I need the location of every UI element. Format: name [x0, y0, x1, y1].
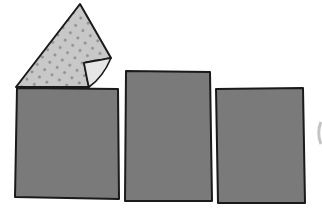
right-panel: [216, 88, 305, 203]
edge-mark: [319, 122, 321, 144]
illustration: [0, 0, 322, 211]
left-panel: [15, 88, 119, 199]
sheet-curl: [84, 58, 111, 87]
middle-panel: [125, 71, 212, 201]
